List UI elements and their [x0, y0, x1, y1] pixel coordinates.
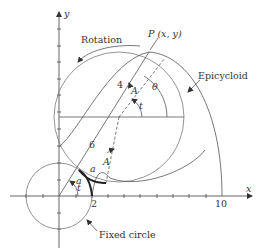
epicycloid-inner-arc [59, 52, 149, 147]
length-4-label: 4 [117, 79, 123, 90]
fixed-circle-pointer [87, 220, 97, 231]
t-label-upper: t [139, 100, 143, 111]
point-pointer [150, 38, 158, 50]
fixed-circle-label: Fixed circle [99, 229, 156, 240]
a-label-fixed: a [76, 175, 82, 186]
dashed-line-lower [106, 117, 119, 183]
epicycloid-diagram: y x 2 10 Rotatio [0, 0, 260, 252]
x-axis: x 2 10 [10, 183, 252, 209]
y-axis: y [57, 8, 70, 248]
theta-label: θ [152, 81, 158, 92]
A-label-upper: A [130, 85, 138, 96]
length-6-label: 6 [89, 139, 95, 150]
point-label: P (x, y) [147, 28, 182, 39]
A-label-lower: A [102, 156, 110, 167]
A-arc-lower [107, 149, 114, 153]
tick-label-10: 10 [215, 198, 227, 209]
A-arc-upper [129, 83, 130, 86]
epicycloid-label: Epicycloid [198, 70, 248, 81]
a-label-rolling: a [90, 163, 96, 174]
rotation-label: Rotation [81, 34, 122, 45]
rotation-arrow [78, 46, 140, 62]
x-axis-label: x [246, 183, 252, 194]
y-axis-label: y [63, 8, 70, 19]
radius-line [59, 52, 149, 196]
